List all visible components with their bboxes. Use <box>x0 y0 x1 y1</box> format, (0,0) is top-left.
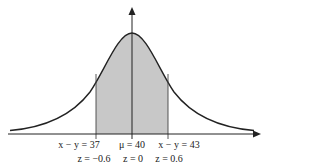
z-left-label: z = −0.6 <box>77 153 110 164</box>
y-axis-arrow-icon <box>129 7 136 15</box>
right-x-label: x − y = 43 <box>158 139 199 150</box>
x-axis-arrow-icon <box>253 131 261 138</box>
z-center-label: z = 0 <box>123 153 143 164</box>
left-x-label: x − y = 37 <box>58 139 99 150</box>
mean-label: μ = 40 <box>119 139 145 150</box>
z-right-label: z = 0.6 <box>155 153 183 164</box>
